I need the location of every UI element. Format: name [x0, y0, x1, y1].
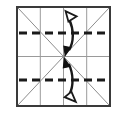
fold-diagram-svg: Square fold diagram with vertical fold a… — [0, 0, 126, 114]
fold-diagram-container: Square fold diagram with vertical fold a… — [0, 0, 126, 114]
